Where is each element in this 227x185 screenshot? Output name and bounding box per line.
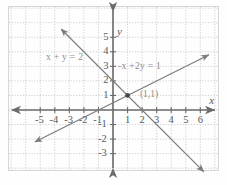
coordinate-plane-svg <box>0 0 227 185</box>
x-tick-label-neg4: -4 <box>50 115 59 126</box>
intersection-point-label: (1,1) <box>140 90 158 100</box>
axes <box>12 11 215 168</box>
y-tick-label-2: 2 <box>103 75 108 86</box>
y-tick-label-neg2: -2 <box>98 134 107 145</box>
x-tick-label-2: 2 <box>140 115 145 126</box>
y-tick-label-neg3: -3 <box>98 148 107 159</box>
intersection-point-marker <box>125 93 130 98</box>
y-tick-label-3: 3 <box>103 61 108 72</box>
plotted-lines <box>35 29 209 172</box>
x-tick-label-4: 4 <box>169 115 174 126</box>
x-tick-label-neg3: -3 <box>64 115 73 126</box>
y-tick-label-neg1: -1 <box>98 119 107 130</box>
x-tick-label-neg2: -2 <box>79 115 88 126</box>
y-tick-label-1: 1 <box>103 90 108 101</box>
x-tick-label-6: 6 <box>198 115 203 126</box>
x-tick-label-3: 3 <box>154 115 159 126</box>
x-tick-label-5: 5 <box>183 115 188 126</box>
equation-1-label: x + y = 2 <box>46 53 83 63</box>
x-axis-name: x <box>209 95 214 106</box>
y-tick-label-4: 4 <box>103 46 108 57</box>
y-axis-name: y <box>117 26 122 37</box>
graph-figure: x y x + y = 2 -x +2y = 1 (1,1) -5-4-3-2-… <box>0 0 227 185</box>
line-series-1 <box>61 29 204 172</box>
x-tick-label-neg5: -5 <box>35 115 44 126</box>
x-tick-label-1: 1 <box>125 115 130 126</box>
equation-2-label: -x +2y = 1 <box>118 62 161 72</box>
y-tick-label-5: 5 <box>103 32 108 43</box>
